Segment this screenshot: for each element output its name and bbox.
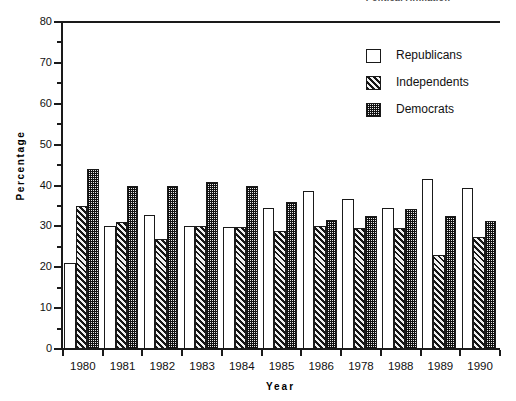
bar-republicans-1984 (223, 227, 234, 349)
legend-item-independents: Independents (366, 74, 506, 95)
legend-item-democrats: Democrats (366, 101, 506, 122)
bar-chart: Political Affiliation 01020304050607080 … (0, 0, 516, 401)
bar-republicans-1980 (64, 263, 75, 349)
x-tick-label-1990: 1990 (457, 360, 503, 373)
bar-independents-1989 (433, 255, 444, 349)
bar-independents-1986 (314, 226, 325, 349)
bar-democrats-1988 (405, 209, 416, 349)
x-tick (62, 350, 64, 356)
bar-republicans-1990 (462, 188, 473, 349)
x-tick (221, 350, 223, 356)
bar-independents-1980 (76, 206, 87, 349)
bar-republicans-1982 (144, 215, 155, 349)
x-tick (499, 350, 501, 356)
legend-swatch-democrats (366, 103, 381, 117)
bar-democrats-1978 (365, 216, 376, 349)
bar-republicans-1986 (303, 191, 314, 349)
bar-independents-1990 (473, 237, 484, 349)
bar-democrats-1981 (127, 186, 138, 350)
x-tick (181, 350, 183, 356)
bar-republicans-1978 (342, 199, 353, 349)
bar-democrats-1985 (286, 202, 297, 349)
bar-republicans-1985 (263, 208, 274, 349)
bar-independents-1981 (116, 222, 127, 349)
bar-independents-1988 (394, 228, 405, 349)
x-tick (459, 350, 461, 356)
legend-item-republicans: Republicans (366, 47, 506, 68)
legend-label-independents: Independents (396, 75, 469, 90)
x-tick (102, 350, 104, 356)
bar-republicans-1989 (422, 179, 433, 349)
legend-swatch-independents (366, 76, 381, 90)
x-tick (261, 350, 263, 356)
x-axis-title: Year (61, 381, 500, 392)
bar-democrats-1989 (445, 216, 456, 349)
legend: Republicans Independents Democrats (366, 47, 506, 128)
bar-democrats-1980 (87, 169, 98, 349)
legend-swatch-republicans (366, 49, 381, 63)
bar-independents-1982 (155, 239, 166, 349)
bar-independents-1978 (354, 228, 365, 349)
bar-independents-1983 (195, 226, 206, 349)
bar-democrats-1986 (326, 220, 337, 349)
legend-label-republicans: Republicans (396, 48, 462, 63)
bar-republicans-1988 (382, 208, 393, 349)
bar-independents-1985 (274, 231, 285, 349)
x-tick (380, 350, 382, 356)
bar-republicans-1983 (184, 226, 195, 349)
x-tick (420, 350, 422, 356)
bar-democrats-1990 (485, 221, 496, 349)
x-tick (340, 350, 342, 356)
x-tick (141, 350, 143, 356)
bar-independents-1984 (235, 227, 246, 349)
legend-label-democrats: Democrats (396, 102, 454, 117)
bar-democrats-1983 (206, 182, 217, 349)
bar-democrats-1984 (246, 186, 257, 349)
bar-republicans-1981 (104, 226, 115, 349)
x-tick (300, 350, 302, 356)
bar-democrats-1982 (167, 186, 178, 350)
